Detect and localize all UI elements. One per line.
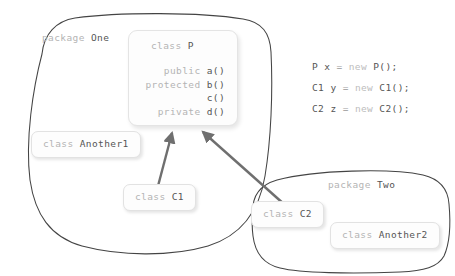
code-new-keyword: new [355,82,373,93]
code-line: C1 y = new C1(); [312,77,410,98]
class-another2-name: Another2 [379,229,428,240]
code-snippet: P x = new P(); C1 y = new C1(); C2 z = n… [312,56,410,119]
class-another1-name: Another1 [80,138,129,149]
class-box-another1[interactable]: class Another1 [31,131,141,158]
code-line: C2 z = new C2(); [312,98,410,119]
code-type: C2 [312,103,324,114]
code-type: P [312,61,318,72]
code-constructor: P(); [373,61,397,72]
diagram-canvas: package One package Two class P public a… [0,0,455,276]
arrow-c2-to-p [203,132,285,205]
code-constructor: C1(); [379,82,410,93]
code-var: y [330,82,336,93]
code-var: x [324,61,330,72]
code-constructor: C2(); [379,103,410,114]
class-c2-name: C2 [300,208,312,219]
class-another1-keyword: class [43,138,74,149]
class-box-c1[interactable]: class C1 [123,184,196,211]
class-box-c2[interactable]: class C2 [251,201,324,228]
class-c1-name: C1 [172,191,184,202]
code-var: z [330,103,336,114]
code-operator: = [337,61,343,72]
arrow-c1-to-p [158,133,172,186]
class-box-another2[interactable]: class Another2 [330,222,440,249]
class-c2-keyword: class [263,208,294,219]
class-another2-keyword: class [342,229,373,240]
code-operator: = [343,103,349,114]
code-type: C1 [312,82,324,93]
code-new-keyword: new [349,61,367,72]
code-line: P x = new P(); [312,56,410,77]
code-operator: = [343,82,349,93]
class-c1-keyword: class [135,191,166,202]
code-new-keyword: new [355,103,373,114]
